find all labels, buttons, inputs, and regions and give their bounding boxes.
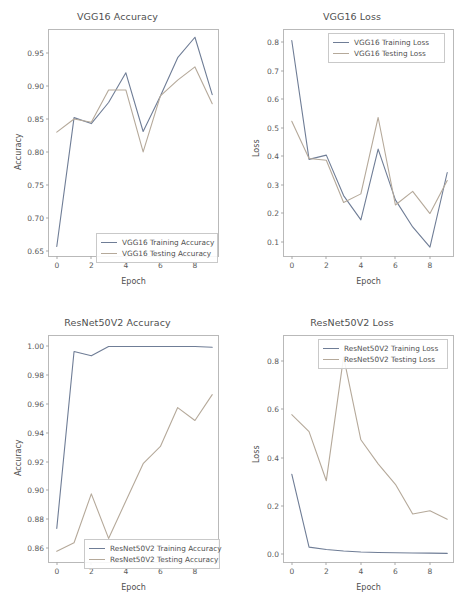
x-axis-tick-mark xyxy=(326,256,327,259)
y-axis-tick-label: 0.4 xyxy=(267,453,279,462)
x-axis-tick-label: 8 xyxy=(428,261,433,270)
y-axis-tick-mark xyxy=(46,461,49,462)
legend-line-swatch xyxy=(323,348,339,349)
panel-resnet50v2-loss: ResNet50V2 Loss 0.00.20.40.60.802468 Los… xyxy=(235,306,469,612)
x-axis-tick-label: 6 xyxy=(393,261,398,270)
x-axis-label: Epoch xyxy=(48,277,219,286)
y-axis-label: Loss xyxy=(252,445,261,463)
legend-label: VGG16 Testing Loss xyxy=(354,48,426,59)
x-axis-tick-mark xyxy=(395,256,396,259)
legend-line-swatch xyxy=(89,559,105,560)
legend-item: VGG16 Testing Loss xyxy=(333,48,439,59)
y-axis-label: Accuracy xyxy=(14,439,23,476)
y-axis-tick-mark xyxy=(46,251,49,252)
figure-canvas: VGG16 Accuracy 0.650.700.750.800.850.900… xyxy=(0,0,469,612)
panel-title: ResNet50V2 Loss xyxy=(235,317,469,328)
legend-label: ResNet50V2 Testing Accuracy xyxy=(110,554,218,565)
legend-line-swatch xyxy=(333,53,349,54)
legend-label: ResNet50V2 Testing Loss xyxy=(344,354,435,365)
legend-item: ResNet50V2 Training Loss xyxy=(323,343,442,354)
y-axis-tick-label: 0.80 xyxy=(27,148,44,157)
y-axis-tick-label: 0.88 xyxy=(27,515,44,524)
y-axis-tick-label: 0.2 xyxy=(267,209,279,218)
series-line xyxy=(292,357,447,519)
x-axis-tick-mark xyxy=(360,256,361,259)
x-axis-tick-label: 2 xyxy=(324,567,329,576)
y-axis-tick-mark xyxy=(281,70,284,71)
plot-lines-resnet50v2-loss xyxy=(284,336,455,564)
legend-label: VGG16 Training Loss xyxy=(354,37,429,48)
x-axis-tick-mark xyxy=(429,562,430,565)
legend-vgg16-loss: VGG16 Training Loss VGG16 Testing Loss xyxy=(328,33,445,63)
y-axis-tick-mark xyxy=(281,213,284,214)
y-axis-tick-label: 0.2 xyxy=(267,501,279,510)
x-axis-tick-label: 8 xyxy=(428,567,433,576)
legend-item: VGG16 Testing Accuracy xyxy=(101,248,212,259)
panel-title: ResNet50V2 Accuracy xyxy=(0,317,235,328)
y-axis-tick-label: 0.96 xyxy=(27,399,44,408)
y-axis-tick-label: 0.5 xyxy=(267,123,279,132)
y-axis-tick-mark xyxy=(46,403,49,404)
x-axis-label: Epoch xyxy=(283,277,454,286)
legend-item: VGG16 Training Loss xyxy=(333,37,439,48)
y-axis-tick-label: 0.7 xyxy=(267,66,279,75)
plot-lines-resnet50v2-accuracy xyxy=(49,336,220,564)
legend-label: ResNet50V2 Training Loss xyxy=(344,343,438,354)
y-axis-tick-label: 0.95 xyxy=(27,49,44,58)
legend-line-swatch xyxy=(101,242,117,243)
legend-line-swatch xyxy=(333,42,349,43)
y-axis-tick-label: 0.70 xyxy=(27,214,44,223)
y-axis-tick-label: 0.4 xyxy=(267,152,279,161)
x-axis-tick-mark xyxy=(291,562,292,565)
x-axis-tick-mark xyxy=(56,256,57,259)
x-axis-tick-label: 2 xyxy=(324,261,329,270)
series-line xyxy=(57,346,212,528)
x-axis-label: Epoch xyxy=(48,583,219,592)
y-axis-tick-mark xyxy=(46,86,49,87)
x-axis-tick-mark xyxy=(395,562,396,565)
y-axis-tick-mark xyxy=(46,185,49,186)
y-axis-tick-mark xyxy=(281,505,284,506)
y-axis-tick-mark xyxy=(281,42,284,43)
y-axis-tick-label: 0.90 xyxy=(27,486,44,495)
y-axis-tick-label: 0.85 xyxy=(27,115,44,124)
y-axis-tick-label: 0.75 xyxy=(27,181,44,190)
legend-label: VGG16 Training Accuracy xyxy=(122,237,214,248)
y-axis-tick-label: 0.1 xyxy=(267,237,279,246)
series-line xyxy=(57,67,212,152)
series-line xyxy=(57,37,212,246)
y-axis-tick-mark xyxy=(281,457,284,458)
axes-vgg16-loss: 0.10.20.30.40.50.60.70.802468 xyxy=(283,29,454,257)
x-axis-tick-mark xyxy=(429,256,430,259)
y-axis-tick-mark xyxy=(281,156,284,157)
axes-resnet50v2-accuracy: 0.860.880.900.920.940.960.981.0002468 xyxy=(48,335,219,563)
x-axis-label: Epoch xyxy=(283,583,454,592)
x-axis-tick-mark xyxy=(291,256,292,259)
y-axis-tick-label: 0.92 xyxy=(27,457,44,466)
y-axis-tick-mark xyxy=(281,99,284,100)
y-axis-tick-mark xyxy=(46,547,49,548)
axes-resnet50v2-loss: 0.00.20.40.60.802468 xyxy=(283,335,454,563)
legend-label: VGG16 Testing Accuracy xyxy=(122,248,211,259)
panel-title: VGG16 Loss xyxy=(235,11,469,22)
y-axis-tick-mark xyxy=(281,409,284,410)
legend-item: ResNet50V2 Testing Accuracy xyxy=(89,554,214,565)
legend-resnet50v2-accuracy: ResNet50V2 Training Accuracy ResNet50V2 … xyxy=(84,539,220,569)
panel-title: VGG16 Accuracy xyxy=(0,11,235,22)
y-axis-tick-label: 0.8 xyxy=(267,38,279,47)
panel-vgg16-accuracy: VGG16 Accuracy 0.650.700.750.800.850.900… xyxy=(0,0,235,306)
x-axis-tick-mark xyxy=(360,562,361,565)
series-line xyxy=(57,395,212,552)
y-axis-tick-mark xyxy=(281,553,284,554)
x-axis-tick-label: 6 xyxy=(393,567,398,576)
y-axis-tick-label: 0.86 xyxy=(27,543,44,552)
y-axis-tick-label: 0.65 xyxy=(27,247,44,256)
x-axis-tick-label: 4 xyxy=(358,567,363,576)
y-axis-tick-label: 0.90 xyxy=(27,82,44,91)
y-axis-tick-label: 0.3 xyxy=(267,180,279,189)
legend-line-swatch xyxy=(89,548,105,549)
legend-item: ResNet50V2 Training Accuracy xyxy=(89,543,214,554)
y-axis-tick-mark xyxy=(46,152,49,153)
y-axis-tick-mark xyxy=(46,375,49,376)
x-axis-tick-label: 0 xyxy=(54,261,59,270)
